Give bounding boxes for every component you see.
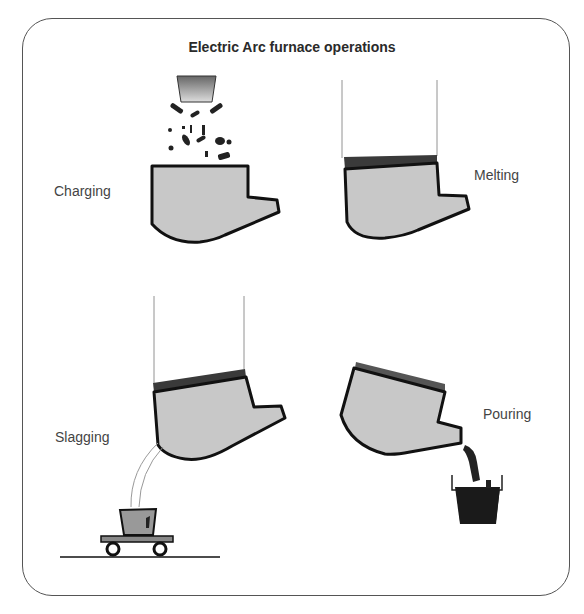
scrap-pieces-icon <box>168 125 232 160</box>
slagging-furnace-shell <box>154 377 285 459</box>
ladle-icon <box>452 475 502 524</box>
charging-scene <box>152 76 279 242</box>
furnace-diagram <box>0 0 584 614</box>
charging-furnace-shell <box>152 166 279 242</box>
melting-scene <box>342 80 469 238</box>
slagging-scene <box>60 296 285 557</box>
molten-steel-stream-icon <box>463 445 480 482</box>
melting-furnace-shell <box>345 163 469 238</box>
pouring-scene <box>341 362 502 524</box>
slag-stream-icon <box>131 443 163 507</box>
pouring-furnace-shell <box>341 368 461 454</box>
slag-cart-icon <box>60 509 220 557</box>
charging-bucket-icon <box>170 76 224 118</box>
